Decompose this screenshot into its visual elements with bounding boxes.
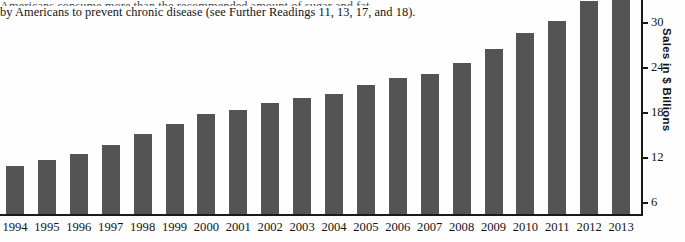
x-tick-label-1996: 1996	[62, 219, 96, 235]
x-tick-label-1998: 1998	[126, 219, 160, 235]
y-tick-label-30: 30	[651, 16, 664, 28]
y-axis-line	[641, 0, 643, 216]
x-tick-label-1997: 1997	[94, 219, 128, 235]
x-tick-label-2000: 2000	[189, 219, 223, 235]
x-tick-label-1995: 1995	[30, 219, 64, 235]
x-axis-line	[0, 214, 643, 216]
y-tick-label-18: 18	[651, 106, 664, 118]
bar-2013	[612, 0, 630, 215]
x-tick-label-1994: 1994	[0, 219, 32, 235]
bar-2012	[580, 1, 598, 216]
bar-1998	[134, 134, 152, 215]
x-tick-label-2001: 2001	[221, 219, 255, 235]
bar-2001	[229, 110, 247, 215]
bar-2006	[389, 78, 407, 215]
x-tick-label-2012: 2012	[572, 219, 606, 235]
bar-1994	[6, 166, 24, 216]
bar-chart: 1994199519961997199819992000200120022003…	[0, 0, 685, 242]
y-tick-12	[641, 157, 648, 159]
y-tick-24	[641, 67, 648, 69]
plot-area	[0, 0, 641, 215]
x-tick-label-2004: 2004	[317, 219, 351, 235]
bar-1999	[166, 124, 184, 216]
x-tick-label-2010: 2010	[508, 219, 542, 235]
x-tick-label-2007: 2007	[413, 219, 447, 235]
y-tick-label-12: 12	[651, 151, 664, 163]
x-tick-label-2002: 2002	[253, 219, 287, 235]
x-tick-label-2013: 2013	[604, 219, 638, 235]
x-tick-label-2006: 2006	[381, 219, 415, 235]
bar-2004	[325, 94, 343, 216]
x-tick-label-2009: 2009	[477, 219, 511, 235]
bar-2003	[293, 98, 311, 215]
bar-2000	[197, 114, 215, 215]
bar-2002	[261, 103, 279, 215]
bar-2008	[453, 63, 471, 215]
figure-page: Americans consume more than the recommen…	[0, 0, 685, 242]
x-tick-label-2005: 2005	[349, 219, 383, 235]
x-tick-label-2003: 2003	[285, 219, 319, 235]
y-tick-18	[641, 112, 648, 114]
y-tick-label-24: 24	[651, 61, 664, 73]
y-tick-6	[641, 202, 648, 204]
x-tick-label-1999: 1999	[158, 219, 192, 235]
bar-1995	[38, 160, 56, 215]
x-axis-tick-labels: 1994199519961997199819992000200120022003…	[0, 219, 641, 239]
x-tick-label-2008: 2008	[445, 219, 479, 235]
bar-2005	[357, 85, 375, 216]
bar-2007	[421, 74, 439, 215]
bar-1997	[102, 145, 120, 216]
y-tick-label-6: 6	[651, 196, 657, 208]
y-tick-30	[641, 22, 648, 24]
bar-2010	[516, 33, 534, 215]
bar-1996	[70, 154, 88, 215]
x-tick-label-2011: 2011	[540, 219, 574, 235]
bar-2009	[485, 49, 503, 216]
bar-2011	[548, 21, 566, 215]
